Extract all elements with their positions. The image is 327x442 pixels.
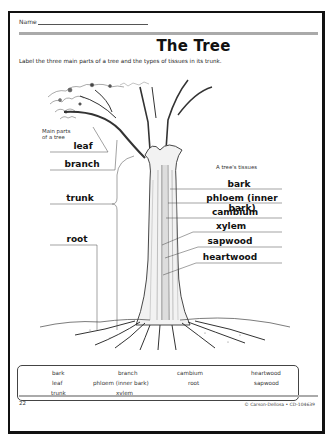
label-bark: bark <box>214 179 264 189</box>
copyright: © Carson-Dellosa • CD-104639 <box>244 402 315 407</box>
word-bank-item: branch <box>118 370 137 376</box>
word-bank-item: phloem (inner bark) <box>93 380 149 386</box>
word-bank-item: leaf <box>52 380 62 386</box>
label-heartwood: heartwood <box>198 252 262 262</box>
word-bank-item: root <box>188 380 199 386</box>
word-bank-item: sapwood <box>254 380 279 386</box>
label-xylem: xylem <box>206 221 256 231</box>
caption-line-2: of a tree <box>42 134 70 140</box>
leaf-cluster-icon <box>48 82 149 119</box>
tissues-caption: A tree's tissues <box>216 164 257 170</box>
footer-divider <box>19 395 318 397</box>
page-number: 22 <box>19 400 26 406</box>
label-root: root <box>62 234 92 244</box>
label-branch: branch <box>60 159 104 169</box>
word-bank-item: cambium <box>177 370 203 376</box>
label-leaf: leaf <box>68 141 98 151</box>
main-parts-caption: Main parts of a tree <box>42 128 70 140</box>
word-bank-item: bark <box>52 370 65 376</box>
label-cambium: cambium <box>200 207 270 217</box>
word-bank-item: heartwood <box>251 370 281 376</box>
label-trunk: trunk <box>60 193 100 203</box>
label-sapwood: sapwood <box>200 236 260 246</box>
